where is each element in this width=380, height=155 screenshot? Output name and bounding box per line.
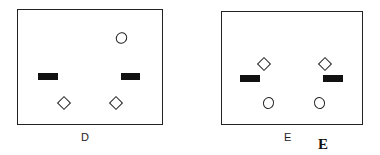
bar-left (240, 75, 260, 82)
bar-right (323, 75, 343, 82)
diamond-icon (57, 96, 71, 110)
diamond-icon (257, 57, 271, 71)
panel-e (221, 11, 363, 125)
panel-e-label: E (284, 131, 291, 143)
bulb-icon (312, 95, 326, 110)
diamond-icon (109, 96, 123, 110)
bulb-icon (113, 30, 129, 46)
bar-right (121, 73, 140, 80)
panel-d (17, 9, 163, 125)
diamond-icon (318, 57, 332, 71)
caption-label: E (318, 136, 328, 153)
bulb-icon (261, 95, 275, 110)
panel-d-label: D (81, 131, 89, 143)
bar-left (38, 73, 58, 80)
